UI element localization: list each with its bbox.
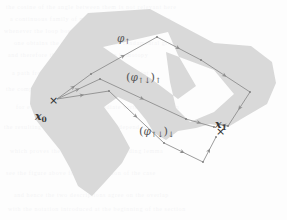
path-label-lower: (φ↑↓)↓ [139, 126, 174, 138]
path-vertex [90, 73, 92, 75]
shaded-region-group [30, 9, 276, 196]
marker-x0: × [49, 95, 58, 106]
path-vertex [108, 90, 110, 92]
path-vertex [200, 59, 202, 61]
path-label-middle-phi: φ [131, 71, 138, 83]
path-vertex [249, 91, 251, 93]
path-vertex [163, 142, 165, 144]
path-vertex [185, 118, 187, 120]
arrowhead [206, 147, 212, 153]
path-label-lower-inner: ↑↓ [151, 130, 164, 139]
shaded-region [30, 9, 276, 196]
path-label-middle-outer: ↑ [155, 76, 161, 85]
path-label-lower-outer: ↓ [168, 130, 174, 139]
arrowhead [120, 53, 126, 59]
path-label-lower-phi: φ [144, 125, 151, 137]
path-vertex [99, 78, 101, 80]
path-label-middle-inner: ↑↓ [138, 76, 151, 85]
figure-container: the cosine of the angle between them is … [0, 0, 287, 220]
path-vertex [202, 161, 204, 163]
vertex-label-x0: x0 [35, 107, 47, 124]
marker-x1: × [216, 126, 225, 137]
path-label-upper-arrow: ↑ [124, 37, 130, 46]
vertex-x0-subscript: 0 [42, 115, 47, 124]
path-vertex [227, 125, 229, 127]
path-vertex [156, 36, 158, 38]
path-label-upper: φ↑ [117, 33, 131, 45]
path-label-middle: (φ↑↓)↑ [126, 72, 161, 84]
arrowhead [180, 149, 186, 155]
